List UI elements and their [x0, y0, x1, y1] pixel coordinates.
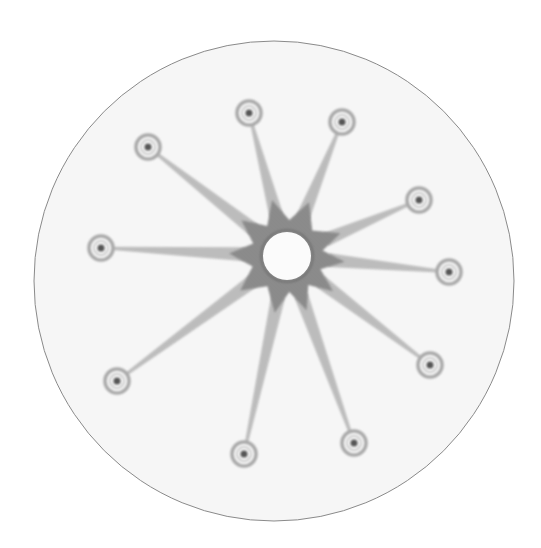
node-dot-icon — [114, 378, 121, 385]
node-top-left — [136, 135, 160, 159]
node-top-right — [330, 110, 354, 134]
node-dot-icon — [351, 440, 358, 447]
node-right-upper — [407, 188, 431, 212]
node-top — [237, 101, 261, 125]
node-right-lower — [418, 353, 442, 377]
node-left — [89, 236, 113, 260]
node-dot-icon — [246, 110, 253, 117]
embroidery-artwork — [0, 0, 541, 548]
node-dot-icon — [339, 119, 346, 126]
node-dot-icon — [446, 269, 453, 276]
node-bottom-right — [342, 431, 366, 455]
hub-hole — [263, 232, 311, 280]
artwork-canvas — [0, 0, 541, 548]
node-dot-icon — [98, 245, 105, 252]
node-right — [437, 260, 461, 284]
node-bottom-left — [105, 369, 129, 393]
node-dot-icon — [416, 197, 423, 204]
node-dot-icon — [145, 144, 152, 151]
node-bottom — [232, 442, 256, 466]
node-dot-icon — [427, 362, 434, 369]
node-dot-icon — [241, 451, 248, 458]
